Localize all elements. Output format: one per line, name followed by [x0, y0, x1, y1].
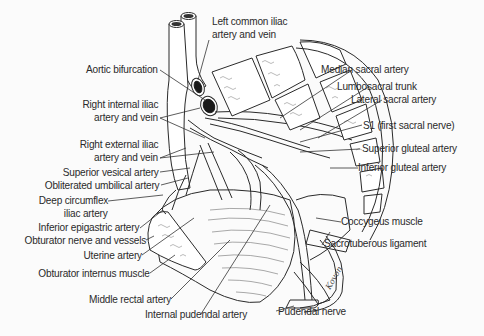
label-inferior-epigastric-artery: Inferior epigastric artery — [38, 221, 139, 234]
label-internal-pudendal-artery: Internal pudendal artery — [145, 308, 247, 321]
label-median-sacral-artery: Median sacral artery — [321, 63, 409, 76]
label-coccygeus-muscle: Coccygeus muscle — [341, 215, 423, 228]
label-superior-gluteal-artery: Superior gluteal artery — [362, 142, 457, 155]
label-superior-vesical-artery: Superior vesical artery — [63, 166, 159, 179]
label-left-common-iliac-line2: artery and vein — [212, 28, 276, 41]
label-right-internal-iliac-line2: artery and vein — [94, 111, 158, 124]
label-inferior-gluteal-artery: Inferior gluteal artery — [358, 161, 446, 174]
artist-signature: Kovon — [323, 265, 344, 292]
label-middle-rectal-artery: Middle rectal artery — [89, 293, 171, 306]
label-lateral-sacral-artery: Lateral sacral artery — [351, 93, 436, 106]
label-left-common-iliac-line1: Left common iliac — [212, 15, 287, 28]
label-aortic-bifurcation: Aortic bifurcation — [86, 63, 158, 76]
label-right-internal-iliac-line1: Right internal iliac — [82, 98, 158, 111]
label-right-external-iliac-line2: artery and vein — [94, 151, 158, 164]
label-obturator-nerve-vessels: Obturator nerve and vessels — [24, 234, 146, 247]
label-obliterated-umbilical-artery: Obliterated umbilical artery — [44, 179, 159, 192]
label-uterine-artery: Uterine artery — [84, 249, 142, 262]
label-lumbosacral-trunk: Lumbosacral trunk — [337, 80, 417, 93]
label-s1-first-sacral-nerve: S1 (first sacral nerve) — [363, 119, 455, 132]
label-pudendal-nerve: Pudendal nerve — [278, 305, 346, 318]
label-deep-circumflex-line1: Deep circumflex — [39, 194, 108, 207]
label-obturator-internus-muscle: Obturator internus muscle — [39, 267, 150, 280]
label-deep-circumflex-line2: iliac artery — [64, 207, 108, 220]
label-sacrotuberous-ligament: Sacrotuberous ligament — [324, 237, 426, 250]
label-right-external-iliac-line1: Right external iliac — [79, 138, 158, 151]
